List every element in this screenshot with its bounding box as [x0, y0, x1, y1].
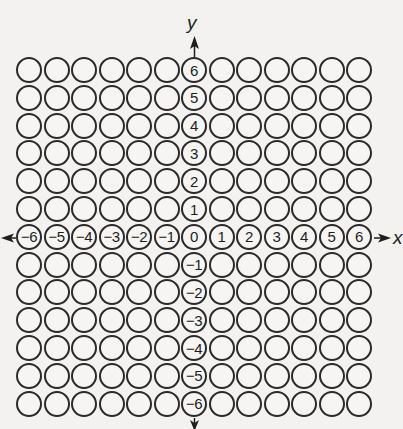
x-axis-tick-circle: 5 — [319, 224, 345, 250]
grid-circle — [16, 363, 42, 389]
grid-circle — [346, 391, 372, 417]
x-axis-tick-circle: 4 — [291, 224, 317, 250]
grid-circle — [154, 113, 180, 139]
y-axis-tick-circle: 0 — [181, 224, 207, 250]
grid-circle — [99, 335, 125, 361]
grid-circle — [44, 140, 70, 166]
grid-circle — [209, 363, 235, 389]
grid-circle — [44, 391, 70, 417]
grid-circle — [99, 279, 125, 305]
grid-circle — [126, 391, 152, 417]
grid-circle — [154, 335, 180, 361]
grid-circle — [291, 363, 317, 389]
grid-circle — [154, 252, 180, 278]
grid-circle — [71, 85, 97, 111]
grid-circle — [291, 335, 317, 361]
grid-circle — [71, 363, 97, 389]
grid-circle — [126, 363, 152, 389]
grid-circle — [264, 335, 290, 361]
grid-circle — [209, 196, 235, 222]
grid-circle — [264, 363, 290, 389]
x-axis-tick-circle: −1 — [154, 224, 180, 250]
grid-circle — [346, 113, 372, 139]
grid-circle — [264, 113, 290, 139]
grid-circle — [99, 363, 125, 389]
y-axis-tick-circle: −6 — [181, 391, 207, 417]
x-axis-tick-circle: −4 — [71, 224, 97, 250]
y-axis-tick-circle: 2 — [181, 168, 207, 194]
grid-circle — [209, 335, 235, 361]
grid-circle — [264, 279, 290, 305]
grid-circle — [236, 85, 262, 111]
x-axis-tick-circle: 6 — [346, 224, 372, 250]
grid-circle — [154, 196, 180, 222]
x-axis-tick-circle: 3 — [264, 224, 290, 250]
grid-circle — [99, 391, 125, 417]
grid-circle — [319, 57, 345, 83]
grid-circle — [16, 85, 42, 111]
x-axis-tick-circle: −3 — [99, 224, 125, 250]
grid-circle — [99, 252, 125, 278]
grid-circle — [126, 57, 152, 83]
grid-circle — [126, 252, 152, 278]
x-axis-tick-circle: 2 — [236, 224, 262, 250]
grid-circle — [346, 196, 372, 222]
grid-circle — [71, 113, 97, 139]
grid-circle — [99, 113, 125, 139]
grid-circle — [319, 140, 345, 166]
grid-circle — [236, 307, 262, 333]
grid-circle — [154, 363, 180, 389]
grid-circle — [346, 85, 372, 111]
y-axis-tick-circle: 5 — [181, 85, 207, 111]
grid-circle — [236, 57, 262, 83]
grid-circle — [236, 391, 262, 417]
grid-circle — [16, 57, 42, 83]
grid-circle — [319, 391, 345, 417]
grid-circle — [44, 196, 70, 222]
grid-circle — [126, 335, 152, 361]
grid-circle — [319, 168, 345, 194]
grid-circle — [291, 391, 317, 417]
grid-circle — [71, 307, 97, 333]
grid-circle — [291, 252, 317, 278]
grid-circle — [264, 252, 290, 278]
grid-circle — [71, 168, 97, 194]
grid-circle — [291, 196, 317, 222]
grid-circle — [71, 391, 97, 417]
grid-circle — [71, 252, 97, 278]
grid-circle — [209, 113, 235, 139]
grid-circle — [264, 57, 290, 83]
grid-circle — [319, 279, 345, 305]
grid-circle — [154, 168, 180, 194]
grid-circle — [126, 113, 152, 139]
grid-circle — [99, 140, 125, 166]
grid-circle — [209, 279, 235, 305]
grid-circle — [44, 335, 70, 361]
grid-circle — [319, 307, 345, 333]
y-axis-tick-circle: −3 — [181, 307, 207, 333]
grid-circle — [154, 57, 180, 83]
grid-circle — [16, 196, 42, 222]
grid-circle — [264, 307, 290, 333]
grid-circle — [99, 57, 125, 83]
grid-circle — [319, 335, 345, 361]
x-axis-tick-circle: 1 — [209, 224, 235, 250]
grid-circle — [44, 363, 70, 389]
x-axis-tick-circle: −6 — [16, 224, 42, 250]
grid-circle — [154, 140, 180, 166]
grid-circle — [236, 335, 262, 361]
grid-circle — [346, 363, 372, 389]
grid-circle — [346, 57, 372, 83]
x-axis-tick-circle: −2 — [126, 224, 152, 250]
y-axis-label: y — [187, 12, 197, 34]
grid-circle — [126, 307, 152, 333]
grid-circle — [346, 252, 372, 278]
grid-circle — [209, 252, 235, 278]
x-axis-tick-circle: −5 — [44, 224, 70, 250]
grid-circle — [291, 307, 317, 333]
grid-circle — [291, 113, 317, 139]
grid-circle — [44, 113, 70, 139]
grid-circle — [209, 307, 235, 333]
grid-circle — [291, 57, 317, 83]
